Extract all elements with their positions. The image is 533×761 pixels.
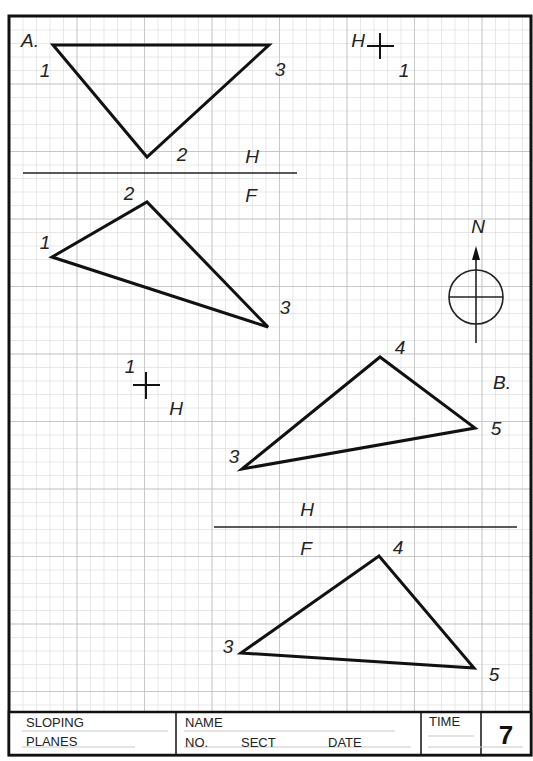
plane-label-f-a: F	[245, 186, 257, 205]
vertex-label-a-front-1: 1	[40, 233, 51, 252]
vertex-label-b-front-5: 5	[489, 665, 500, 684]
drawing-sheet: A. 1 3 2 H F 2 1 3 H 1 1 H N B. 4 5 3 H …	[0, 0, 533, 761]
grid-paper-major	[9, 16, 531, 712]
vertex-label-b-front-3: 3	[223, 637, 234, 656]
drawing-canvas	[0, 0, 533, 761]
marker-front-label-1: 1	[125, 357, 136, 376]
problem-b-label: B.	[493, 373, 511, 392]
time-field-label: TIME	[429, 715, 460, 728]
vertex-label-b-top-3: 3	[229, 447, 240, 466]
vertex-label-a-top-2: 2	[177, 145, 188, 164]
vertex-label-a-top-1: 1	[40, 61, 51, 80]
vertex-label-b-top-5: 5	[491, 419, 502, 438]
vertex-label-a-top-3: 3	[275, 60, 286, 79]
date-field-label: DATE	[328, 736, 362, 749]
plane-label-h-b: H	[300, 500, 314, 519]
title-line-2: PLANES	[26, 735, 77, 748]
plane-label-h-a: H	[245, 147, 259, 166]
north-label: N	[471, 217, 485, 236]
vertex-label-a-front-3: 3	[280, 298, 291, 317]
vertex-label-b-front-4: 4	[393, 538, 404, 557]
name-field-label: NAME	[185, 716, 223, 729]
vertex-label-b-top-4: 4	[395, 338, 406, 357]
no-field-label: NO.	[185, 736, 208, 749]
title-line-1: SLOPING	[26, 716, 84, 729]
sheet-number: 7	[499, 720, 513, 751]
plane-label-f-b: F	[300, 539, 312, 558]
marker-top-label-h: H	[351, 31, 365, 50]
marker-top-label-1: 1	[399, 61, 410, 80]
vertex-label-a-front-2: 2	[124, 184, 135, 203]
sect-field-label: SECT	[241, 736, 276, 749]
marker-front-label-h: H	[169, 399, 183, 418]
problem-a-label: A.	[21, 31, 39, 50]
